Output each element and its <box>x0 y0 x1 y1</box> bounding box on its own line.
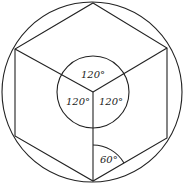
label-right-angle: 120° <box>99 97 123 107</box>
label-bottom-angle: 60° <box>100 155 118 165</box>
label-left-angle: 120° <box>66 97 90 107</box>
diagram: 120° 120° 120° 60° <box>0 0 183 185</box>
cube-hexagon-figure <box>0 0 183 185</box>
label-top-angle: 120° <box>81 70 105 80</box>
hexagon <box>15 3 167 181</box>
